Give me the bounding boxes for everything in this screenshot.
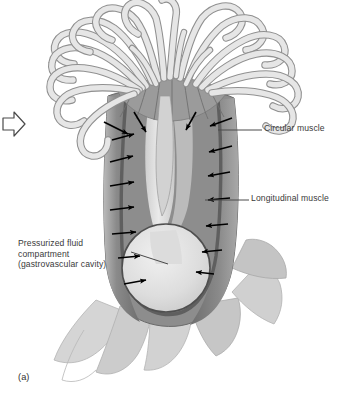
label-longitudinal-muscle: Longitudinal muscle [251, 193, 329, 204]
label-circular-muscle: Circular muscle [264, 123, 325, 134]
label-pressurized-fluid-compartment: Pressurized fluid compartment (gastrovas… [18, 238, 128, 270]
figure-caption: (a) [18, 372, 30, 383]
arrow-right-outline-icon [3, 112, 25, 136]
